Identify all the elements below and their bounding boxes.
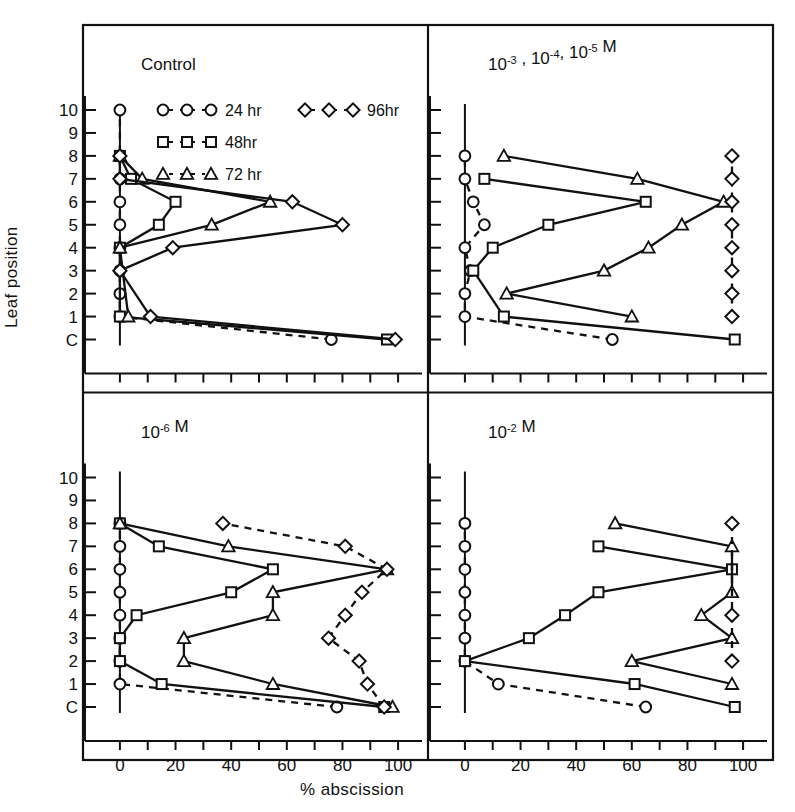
- marker-circle: [479, 219, 490, 230]
- y-tick-label: C: [66, 331, 78, 350]
- marker-diamond: [725, 287, 738, 300]
- marker-circle: [115, 105, 126, 116]
- marker-square: [206, 137, 216, 147]
- y-tick-label: 7: [69, 170, 78, 189]
- x-tick-label: 40: [222, 756, 241, 775]
- marker-diamond: [725, 310, 738, 323]
- marker-circle: [460, 564, 471, 575]
- legend-label: 48hr: [225, 134, 258, 151]
- marker-square: [171, 197, 181, 207]
- marker-diamond: [725, 172, 738, 185]
- marker-circle: [460, 173, 471, 184]
- marker-square: [132, 610, 142, 620]
- marker-square: [268, 564, 278, 574]
- chart-canvas: C12345678910Control10-3 , 10-4, 10-5 MC1…: [0, 0, 795, 812]
- legend-label: 72 hr: [225, 166, 262, 183]
- marker-circle: [640, 702, 651, 713]
- series-line-diamond: [223, 523, 387, 707]
- y-tick-label: 9: [69, 124, 78, 143]
- series-line-diamond: [120, 156, 395, 340]
- x-tick-label: 0: [460, 756, 469, 775]
- marker-circle: [115, 679, 126, 690]
- marker-diamond: [166, 241, 179, 254]
- y-tick-label: 6: [69, 193, 78, 212]
- marker-diamond: [216, 517, 229, 530]
- marker-triangle: [178, 655, 190, 666]
- marker-diamond: [725, 149, 738, 162]
- marker-square: [157, 679, 167, 689]
- marker-triangle: [157, 168, 169, 179]
- y-tick-label: 4: [69, 239, 78, 258]
- marker-square: [468, 266, 478, 276]
- marker-square: [499, 312, 509, 322]
- marker-circle: [115, 541, 126, 552]
- marker-diamond: [725, 264, 738, 277]
- marker-diamond: [725, 655, 738, 668]
- marker-square: [641, 197, 651, 207]
- marker-square: [630, 679, 640, 689]
- marker-triangle: [609, 517, 621, 528]
- marker-circle: [115, 196, 126, 207]
- panel-title: 10-3 , 10-4, 10-5 M: [488, 37, 617, 74]
- y-tick-label: 7: [69, 537, 78, 556]
- panel-very-high-conc: 02040608010010-2 M: [430, 417, 767, 776]
- marker-circle: [460, 151, 471, 162]
- marker-diamond: [322, 103, 335, 116]
- marker-circle: [468, 196, 479, 207]
- marker-square: [115, 633, 125, 643]
- marker-triangle: [642, 241, 654, 252]
- marker-triangle: [598, 264, 610, 275]
- marker-square: [560, 610, 570, 620]
- marker-square: [593, 541, 603, 551]
- x-tick-label: 40: [567, 756, 586, 775]
- marker-circle: [460, 587, 471, 598]
- y-tick-label: 4: [69, 606, 78, 625]
- marker-triangle: [205, 168, 217, 179]
- marker-square: [154, 220, 164, 230]
- x-tick-label: 20: [166, 756, 185, 775]
- y-tick-label: 8: [69, 514, 78, 533]
- marker-diamond: [725, 517, 738, 530]
- marker-triangle: [267, 609, 279, 620]
- panel-high-conc: 10-3 , 10-4, 10-5 M: [430, 37, 767, 383]
- legend-label: 24 hr: [225, 102, 262, 119]
- marker-diamond: [286, 195, 299, 208]
- x-axis-label: % abscission: [300, 780, 404, 800]
- marker-diamond: [725, 218, 738, 231]
- legend: 24 hr96hr48hr72 hr: [157, 102, 400, 183]
- marker-square: [226, 587, 236, 597]
- panel-low-conc: C1234567891002040608010010-6 M: [59, 417, 422, 776]
- marker-circle: [493, 679, 504, 690]
- x-tick-label: 100: [384, 756, 412, 775]
- panel-title: 10-6 M: [141, 417, 189, 442]
- y-tick-label: 1: [69, 308, 78, 327]
- marker-circle: [460, 518, 471, 529]
- y-tick-label: 6: [69, 560, 78, 579]
- series-line-square: [473, 179, 734, 340]
- marker-square: [460, 656, 470, 666]
- marker-diamond: [725, 241, 738, 254]
- panel-title: 10-2 M: [488, 417, 536, 442]
- marker-diamond: [336, 218, 349, 231]
- marker-triangle: [676, 219, 688, 230]
- series-line-square: [465, 546, 735, 707]
- marker-circle: [115, 610, 126, 621]
- marker-circle: [115, 587, 126, 598]
- y-tick-label: C: [66, 698, 78, 717]
- legend-entry-72hr: 72 hr: [157, 166, 262, 183]
- marker-diamond: [113, 172, 126, 185]
- marker-square: [543, 220, 553, 230]
- marker-diamond: [339, 609, 352, 622]
- marker-square: [488, 243, 498, 253]
- marker-diamond: [355, 586, 368, 599]
- x-tick-label: 80: [678, 756, 697, 775]
- marker-diamond: [298, 103, 311, 116]
- marker-circle: [182, 105, 193, 116]
- legend-entry-48hr: 48hr: [158, 134, 258, 151]
- y-tick-label: 3: [69, 629, 78, 648]
- x-tick-label: 100: [729, 756, 757, 775]
- y-tick-label: 10: [59, 469, 78, 488]
- marker-square: [730, 335, 740, 345]
- marker-square: [158, 137, 168, 147]
- marker-diamond: [346, 103, 359, 116]
